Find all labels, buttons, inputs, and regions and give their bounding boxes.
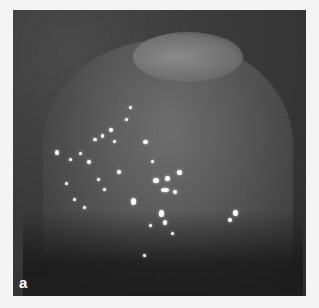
endoscopy-image: a (13, 10, 306, 296)
lesion-top (133, 32, 243, 82)
panel-label: a (19, 275, 27, 290)
